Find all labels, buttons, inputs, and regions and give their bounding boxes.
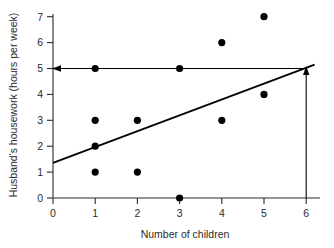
data-point [218, 117, 225, 124]
y-tick-group: 7 6 5 4 3 2 1 0 [37, 11, 53, 204]
prediction-vertical-arrow [303, 66, 309, 198]
data-point [92, 117, 99, 124]
x-tick-label-2: 2 [134, 207, 140, 219]
x-tick-label-3: 3 [177, 207, 183, 219]
y-tick-label-1: 1 [37, 166, 43, 178]
x-tick-label-1: 1 [92, 207, 98, 219]
y-axis-title: Husband's housework (hours per week) [7, 13, 19, 198]
y-tick-label-4: 4 [37, 88, 43, 100]
y-tick-label-2: 2 [37, 140, 43, 152]
data-point [134, 169, 141, 176]
y-tick-label-7: 7 [37, 11, 43, 23]
data-point [176, 65, 183, 72]
y-tick-label-0: 0 [37, 192, 43, 204]
data-point [218, 39, 225, 46]
y-tick-label-3: 3 [37, 114, 43, 126]
x-tick-label-0: 0 [50, 207, 56, 219]
data-point [92, 143, 99, 150]
data-point [92, 65, 99, 72]
x-axis-title: Number of children [141, 228, 230, 240]
data-point [260, 91, 267, 98]
x-tick-label-6: 6 [303, 207, 309, 219]
y-tick-label-5: 5 [37, 62, 43, 74]
data-point [92, 169, 99, 176]
scatter-plot-figure: Husband's housework (hours per week) 7 6… [0, 0, 334, 248]
data-point [260, 13, 267, 20]
plot-canvas: Husband's housework (hours per week) 7 6… [0, 0, 334, 248]
x-tick-label-5: 5 [261, 207, 267, 219]
data-point [176, 194, 183, 201]
data-point [134, 117, 141, 124]
data-point-group [92, 13, 268, 202]
y-tick-label-6: 6 [37, 36, 43, 48]
x-tick-label-4: 4 [219, 207, 225, 219]
